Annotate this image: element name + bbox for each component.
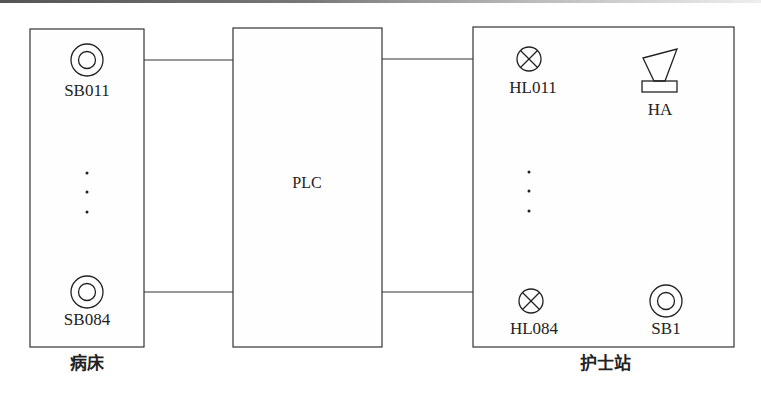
- item-label: HL011: [509, 78, 557, 97]
- item-label: SB011: [64, 81, 110, 100]
- item-label: SB084: [64, 310, 111, 329]
- bedside-block: SB011 SB084 病床: [30, 29, 144, 373]
- nurse-station-block: HL011 HA HL084 SB1 护士站: [473, 27, 734, 373]
- nurse-call-diagram: SB011 SB084 病床 PLC HL011 HA: [0, 0, 761, 394]
- nurse-station-box: [473, 27, 734, 347]
- plc-label: PLC: [292, 174, 321, 191]
- plc-block: PLC: [233, 28, 382, 347]
- bedside-caption: 病床: [70, 353, 105, 373]
- nurse-station-caption: 护士站: [580, 353, 631, 373]
- item-label: SB1: [651, 319, 680, 338]
- item-label: HL084: [510, 319, 559, 338]
- item-label: HA: [648, 100, 673, 119]
- bedside-box: [30, 29, 144, 347]
